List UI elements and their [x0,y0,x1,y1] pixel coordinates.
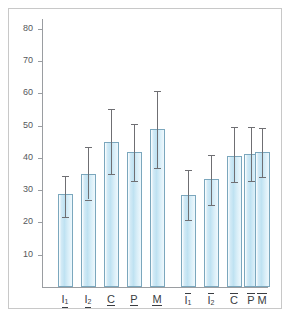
plot-area: 1020304050607080I1I2CPMI1I2CPM [0,0,291,318]
error-bar-line [188,170,189,220]
category-label-text: M [257,293,266,306]
error-bar-cap-upper [85,147,92,148]
y-axis-tick-mark [38,126,42,127]
category-label-text: M [152,293,161,306]
y-axis-tick-label: 40 [13,153,33,162]
figure-canvas: 1020304050607080I1I2CPMI1I2CPM [0,0,291,318]
error-bar-line [251,127,252,181]
error-bar-cap-upper [208,155,215,156]
error-bar-cap-lower [208,205,215,206]
y-axis-tick-label: 60 [13,88,33,97]
y-axis-tick-label: 30 [13,185,33,194]
error-bar-cap-upper [248,127,255,128]
x-axis-category-label: M [248,293,276,306]
error-bar-line [111,109,112,174]
error-bar-line [134,124,135,182]
y-axis-tick-label: 50 [13,121,33,130]
error-bar-cap-upper [154,91,161,92]
y-axis-tick-label: 20 [13,217,33,226]
error-bar-cap-lower [108,174,115,175]
y-axis-tick-mark [38,158,42,159]
y-axis-tick-mark [38,190,42,191]
error-bar-cap-lower [154,168,161,169]
error-bar-cap-lower [185,220,192,221]
error-bar-cap-lower [85,200,92,201]
error-bar-line [234,127,235,182]
category-label-text: I1 [62,293,69,308]
error-bar-cap-lower [259,177,266,178]
category-label-text: I2 [208,293,215,308]
error-bar-cap-upper [231,127,238,128]
error-bar-cap-upper [131,124,138,125]
category-label-subscript: 2 [88,298,92,305]
y-axis-tick-mark [38,255,42,256]
y-axis-tick-mark [38,222,42,223]
error-bar-cap-upper [185,170,192,171]
error-bar-cap-lower [62,217,69,218]
category-label-text: I2 [85,293,92,308]
category-label-subscript: 1 [65,298,69,305]
error-bar-cap-upper [259,128,266,129]
error-bar-line [88,147,89,199]
error-bar-cap-upper [108,109,115,110]
y-axis-tick-label: 10 [13,250,33,259]
y-axis-tick-mark [38,61,42,62]
category-label-text: P [130,293,137,306]
y-axis-tick-mark [38,93,42,94]
error-bar-line [262,128,263,177]
y-axis-tick-label: 70 [13,56,33,65]
y-axis-spine [42,19,43,287]
x-axis-spine [42,287,268,288]
category-label-subscript: 1 [188,299,192,306]
error-bar-cap-lower [131,181,138,182]
y-axis-tick-label: 80 [13,24,33,33]
category-label-subscript: 2 [211,299,215,306]
error-bar-cap-lower [231,182,238,183]
error-bar-line [65,176,66,217]
error-bar-line [157,91,158,168]
category-label-text: C [107,293,115,306]
error-bar-line [211,155,212,204]
category-label-text: I1 [185,293,192,308]
error-bar-cap-upper [62,176,69,177]
y-axis-tick-mark [38,29,42,30]
x-axis-category-label: M [143,293,171,306]
